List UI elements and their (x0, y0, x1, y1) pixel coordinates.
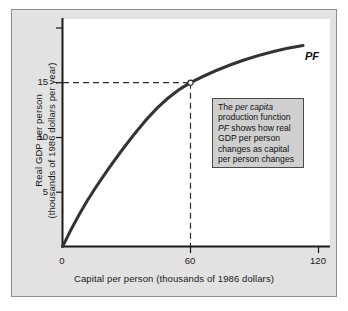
y-axis-title: Real GDP per person (thousands of 1986 d… (33, 41, 58, 241)
y-axis-title-line2: (thousands of 1986 dollars per year) (45, 41, 58, 241)
figure-panel: 5 10 15 0 60 120 Capital per person (tho… (11, 9, 337, 297)
annotation-line-5: changes as capital (218, 144, 299, 154)
curve-label-pf: PF (305, 50, 319, 62)
annotation-textbox: The per capitaproduction functionPF show… (212, 98, 304, 168)
annotation-line-2: production function (218, 112, 299, 122)
x-tick-label-0: 0 (50, 255, 74, 266)
y-axis-title-line1: Real GDP per person (33, 94, 44, 187)
x-axis-title: Capital per person (thousands of 1986 do… (12, 273, 336, 284)
annotation-line-6: per person changes (218, 154, 299, 164)
annotation-line-4: GDP per person (218, 133, 299, 143)
x-tick-label-120: 120 (306, 255, 330, 266)
annotation-line-3: PF shows how real (218, 123, 299, 133)
x-tick-label-60: 60 (178, 255, 202, 266)
reference-point-marker (188, 80, 193, 85)
annotation-line-1: The per capita (218, 102, 299, 112)
